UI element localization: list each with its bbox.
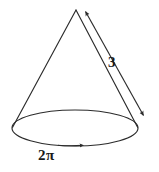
base-circumference-direction-arrow: [58, 145, 82, 146]
cone-base-ellipse: [12, 110, 138, 146]
base-circumference-label: 2π: [38, 148, 55, 163]
cone-figure: [0, 0, 159, 172]
slant-height-label: 3: [108, 55, 116, 70]
cone-diagram-canvas: 3 2π: [0, 0, 159, 172]
cone-right-slant-edge: [76, 10, 138, 127]
